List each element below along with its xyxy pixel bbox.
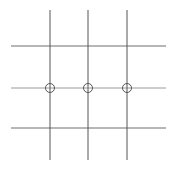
grid-diagram-canvas <box>0 0 176 169</box>
grid-diagram-svg <box>0 0 176 169</box>
